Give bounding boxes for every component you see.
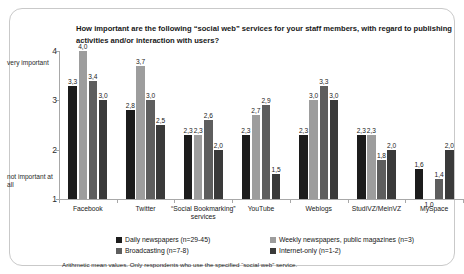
- bar[interactable]: [377, 160, 386, 199]
- bar[interactable]: [330, 100, 339, 199]
- x-tick: [117, 199, 118, 203]
- bar-value-label: 2,5: [150, 117, 172, 124]
- bar[interactable]: [68, 86, 77, 199]
- legend-item[interactable]: Daily newspapers (n=29-45): [116, 236, 210, 243]
- bar-value-label: 2,6: [197, 112, 219, 119]
- legend-item[interactable]: Weekly newspapers, public magazines (n=3…: [270, 236, 414, 243]
- bar[interactable]: [367, 135, 376, 199]
- bar[interactable]: [242, 135, 251, 199]
- bar[interactable]: [272, 174, 281, 199]
- bar[interactable]: [387, 150, 396, 199]
- y-tick-label: 4: [0, 46, 57, 56]
- bar-value-label: 2,3: [360, 127, 382, 134]
- legend-swatch: [270, 237, 276, 243]
- bar[interactable]: [415, 169, 424, 199]
- bar[interactable]: [320, 86, 329, 199]
- x-tick: [405, 199, 406, 203]
- bar[interactable]: [435, 179, 444, 199]
- chart-annotation: Arithmetic mean values. Only respondents…: [62, 261, 297, 268]
- y-tick-label: 1: [0, 194, 57, 204]
- legend-item[interactable]: Internet-only (n=1-2): [270, 247, 341, 254]
- bar-value-label: 2,9: [255, 97, 277, 104]
- bar[interactable]: [156, 125, 165, 199]
- bar-value-label: 3,0: [92, 92, 114, 99]
- bar[interactable]: [214, 150, 223, 199]
- x-axis-line: [59, 199, 463, 200]
- plot-area: 1234very importantnot important at all F…: [59, 51, 463, 199]
- bar[interactable]: [262, 105, 271, 199]
- chart-title: How important are the following “social …: [76, 23, 458, 46]
- legend-label: Internet-only (n=1-2): [279, 247, 341, 254]
- bar-value-label: 3,4: [82, 73, 104, 80]
- bar-value-label: 2,0: [381, 142, 403, 149]
- bar-group: 1,61,01,42,0: [405, 51, 463, 199]
- y-axis-caption-low: not important at all: [7, 173, 53, 189]
- bar[interactable]: [146, 100, 155, 199]
- bar[interactable]: [357, 135, 366, 199]
- bar[interactable]: [136, 66, 145, 199]
- x-tick: [232, 199, 233, 203]
- y-tick-label: 2: [0, 145, 57, 155]
- x-tick: [290, 199, 291, 203]
- bar-value-label: 4,0: [72, 43, 94, 50]
- x-tick: [59, 199, 60, 203]
- legend-label: Weekly newspapers, public magazines (n=3…: [279, 236, 414, 243]
- bar[interactable]: [126, 110, 135, 199]
- x-tick: [174, 199, 175, 203]
- bar-group: 2,33,03,33,0: [290, 51, 348, 199]
- bar[interactable]: [309, 100, 318, 199]
- legend-label: Broadcasting (n=7-8): [125, 247, 189, 254]
- legend-swatch: [116, 248, 122, 254]
- bar-value-label: 2,0: [207, 142, 229, 149]
- bar-value-label: 2,0: [438, 142, 460, 149]
- bar[interactable]: [194, 135, 203, 199]
- bar-value-label: 1,0: [418, 201, 440, 208]
- legend-swatch: [116, 237, 122, 243]
- bar[interactable]: [204, 120, 213, 199]
- bar[interactable]: [445, 150, 454, 199]
- y-tick-label: 3: [0, 95, 57, 105]
- bar[interactable]: [299, 135, 308, 199]
- bar[interactable]: [99, 100, 108, 199]
- bar-value-label: 1,6: [408, 161, 430, 168]
- legend-label: Daily newspapers (n=29-45): [125, 236, 210, 243]
- legend-swatch: [270, 248, 276, 254]
- bar-group: 2,32,72,91,5: [232, 51, 290, 199]
- y-axis-caption-high: very important: [7, 59, 53, 67]
- bar-value-label: 3,0: [323, 92, 345, 99]
- bar-value-label: 3,0: [140, 92, 162, 99]
- x-tick: [348, 199, 349, 203]
- chart-frame: How important are the following “social …: [9, 8, 455, 266]
- bar[interactable]: [252, 115, 261, 199]
- bar-group: 3,34,03,43,0: [59, 51, 117, 199]
- bar-value-label: 3,7: [130, 58, 152, 65]
- bar-value-label: 3,3: [313, 78, 335, 85]
- legend-item[interactable]: Broadcasting (n=7-8): [116, 247, 189, 254]
- bar-group: 2,83,73,02,5: [117, 51, 175, 199]
- bar[interactable]: [184, 135, 193, 199]
- bar-group: 2,32,31,82,0: [348, 51, 406, 199]
- bar-group: 2,32,32,62,0: [174, 51, 232, 199]
- bar-value-label: 1,5: [265, 166, 287, 173]
- chart-legend: Daily newspapers (n=29-45)Weekly newspap…: [116, 236, 456, 258]
